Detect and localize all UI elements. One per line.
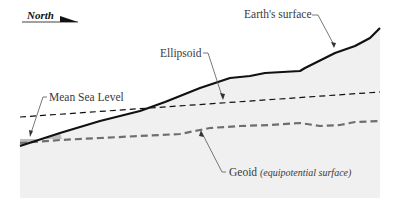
geodesy-diagram (0, 0, 399, 212)
mean-sea-level-leader (29, 97, 47, 137)
north-label: North (27, 10, 54, 21)
geoid-label: Geoid (equipotential surface) (229, 167, 351, 179)
earth-surface-leader (312, 15, 336, 48)
earth-surface-label: Earth's surface (244, 9, 312, 21)
mean-sea-level-label: Mean Sea Level (49, 92, 124, 104)
ellipsoid-label: Ellipsoid (160, 48, 202, 60)
geoid-label-main: Geoid (229, 166, 257, 178)
geoid-label-subtitle: (equipotential surface) (260, 167, 351, 178)
